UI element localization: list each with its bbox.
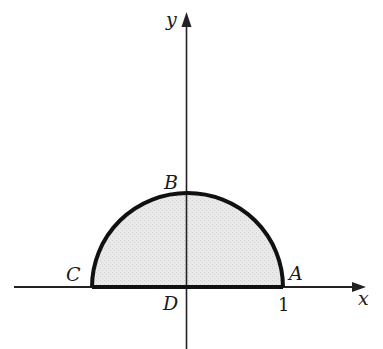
y-axis-label: y bbox=[165, 8, 177, 30]
y-axis-arrow-icon bbox=[182, 12, 192, 27]
semicircle-diagram: y x B C A D 1 bbox=[0, 0, 383, 349]
shaded-region bbox=[92, 193, 283, 287]
tick-label-one: 1 bbox=[278, 294, 289, 315]
point-label-b: B bbox=[163, 171, 178, 193]
point-label-d: D bbox=[162, 292, 178, 314]
x-axis-label: x bbox=[358, 287, 369, 309]
point-label-c: C bbox=[66, 263, 81, 285]
point-label-a: A bbox=[287, 262, 303, 284]
